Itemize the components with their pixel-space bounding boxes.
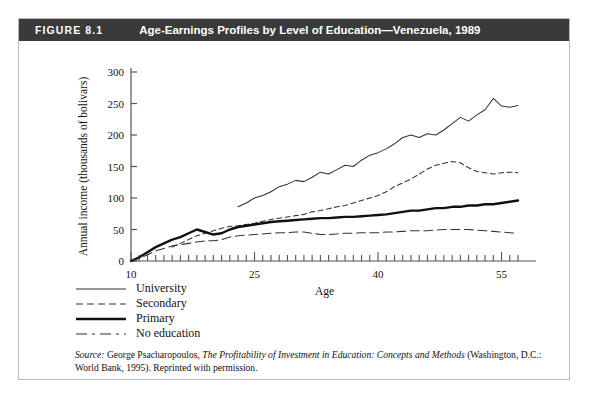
figure-panel: FIGURE 8.1 Age-Earnings Profiles by Leve… (18, 18, 570, 380)
y-tick-label: 150 (108, 161, 125, 173)
source-label: Source: (75, 349, 104, 360)
series-line-primary (131, 201, 518, 261)
series-line-secondary (172, 161, 518, 247)
legend-swatch-secondary (75, 298, 127, 310)
legend-swatch-university (75, 283, 127, 295)
y-tick-label: 0 (119, 255, 125, 267)
y-tick-label: 100 (108, 192, 125, 204)
y-axis-title: Annual income (thousands of bolivars) (77, 77, 90, 257)
legend-item-no-education: No education (75, 326, 305, 341)
legend-label-no-education: No education (136, 326, 200, 341)
chart-series (131, 98, 518, 261)
x-tick-label: 25 (249, 268, 260, 280)
x-tick-label: 10 (126, 268, 138, 280)
y-tick-label: 250 (108, 98, 125, 110)
legend-swatch-no-education (75, 328, 127, 340)
x-tick-label: 40 (373, 268, 385, 280)
source-note: Source: George Psacharopoulos, The Profi… (75, 349, 549, 374)
chart-legend: University Secondary Primary No educatio… (75, 281, 305, 341)
legend-item-secondary: Secondary (75, 296, 305, 311)
source-author: George Psacharopoulos, (104, 349, 202, 360)
legend-label-primary: Primary (136, 311, 175, 326)
legend-item-primary: Primary (75, 311, 305, 326)
x-axis-title: Age (315, 285, 334, 298)
source-work-title: The Profitability of Investment in Educa… (202, 349, 464, 360)
legend-item-university: University (75, 281, 305, 296)
y-tick-label: 50 (113, 224, 125, 236)
figure-header-bar: FIGURE 8.1 Age-Earnings Profiles by Leve… (19, 19, 569, 41)
figure-title: Age-Earnings Profiles by Level of Educat… (139, 24, 480, 36)
y-tick-label: 300 (108, 66, 125, 78)
x-tick-label: 55 (496, 268, 508, 280)
legend-swatch-primary (75, 313, 127, 325)
legend-label-university: University (136, 281, 187, 296)
series-line-university (238, 98, 518, 206)
legend-label-secondary: Secondary (136, 296, 187, 311)
y-tick-label: 200 (108, 129, 125, 141)
figure-number: FIGURE 8.1 (35, 24, 103, 36)
